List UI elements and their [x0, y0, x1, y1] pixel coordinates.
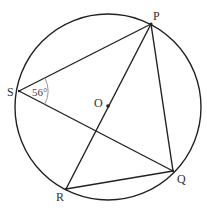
label-o: O	[94, 96, 103, 110]
circle-diagram: P S O Q R 56°	[0, 0, 207, 214]
label-r: R	[56, 190, 64, 204]
chord-sp	[19, 24, 151, 91]
label-s: S	[7, 85, 14, 99]
point-q	[172, 170, 174, 172]
point-o	[106, 104, 110, 108]
label-p: P	[153, 9, 160, 23]
label-q: Q	[177, 172, 186, 186]
point-s	[18, 90, 20, 92]
angle-label-s: 56°	[32, 86, 47, 98]
chord-pq	[151, 24, 173, 171]
point-r	[65, 188, 67, 190]
